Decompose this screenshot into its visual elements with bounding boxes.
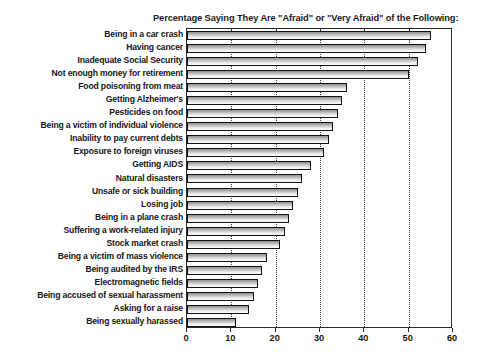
bar	[187, 96, 342, 105]
category-label: Being in a car crash	[0, 29, 183, 39]
x-tick-40	[363, 328, 364, 332]
category-label: Getting Alzheimer's	[0, 94, 183, 104]
category-label: Suffering a work-related injury	[0, 225, 183, 235]
category-label: Not enough money for retirement	[0, 68, 183, 78]
x-tick-label-30: 30	[314, 333, 324, 343]
x-tick-20	[275, 328, 276, 332]
bar-row	[187, 81, 451, 94]
x-tick-0	[186, 328, 187, 332]
x-axis-tick-labels: 0102030405060	[186, 333, 452, 347]
bar-row	[187, 186, 451, 199]
bar	[187, 44, 426, 53]
bar	[187, 122, 333, 131]
bar-row	[187, 212, 451, 225]
bar-row	[187, 29, 451, 42]
bar-series	[187, 29, 451, 327]
bar	[187, 161, 311, 170]
bar	[187, 83, 347, 92]
category-label: Getting AIDS	[0, 159, 183, 169]
bar-row	[187, 68, 451, 81]
bar-row	[187, 303, 451, 316]
category-label: Inadequate Social Security	[0, 55, 183, 65]
category-label: Inability to pay current debts	[0, 133, 183, 143]
bar-row	[187, 55, 451, 68]
x-tick-50	[408, 328, 409, 332]
category-label: Being accused of sexual harassment	[0, 290, 183, 300]
plot-area	[186, 28, 452, 328]
category-label: Electromagnetic fields	[0, 277, 183, 287]
bar-row	[187, 251, 451, 264]
category-label: Losing job	[0, 199, 183, 209]
category-label: Exposure to foreign viruses	[0, 146, 183, 156]
bar	[187, 135, 329, 144]
category-label: Being a victim of mass violence	[0, 251, 183, 261]
x-tick-label-40: 40	[358, 333, 368, 343]
category-label: Pesticides on food	[0, 107, 183, 117]
bar	[187, 214, 289, 223]
category-label: Being in a plane crash	[0, 212, 183, 222]
category-label: Being sexually harassed	[0, 316, 183, 326]
chart-page: Percentage Saying They Are "Afraid" or "…	[0, 0, 477, 355]
x-tick-label-20: 20	[270, 333, 280, 343]
category-label: Natural disasters	[0, 173, 183, 183]
bar	[187, 148, 324, 157]
bar	[187, 292, 254, 301]
x-tick-60	[452, 328, 453, 332]
bar	[187, 188, 298, 197]
bar-row	[187, 277, 451, 290]
bar-row	[187, 264, 451, 277]
category-label: Stock market crash	[0, 238, 183, 248]
bar	[187, 201, 293, 210]
category-label: Being audited by the IRS	[0, 264, 183, 274]
bar	[187, 240, 280, 249]
scan-artifact-strip	[0, 0, 477, 10]
category-label: Being a victim of individual violence	[0, 120, 183, 130]
bar-row	[187, 172, 451, 185]
bar	[187, 279, 258, 288]
category-label: Having cancer	[0, 42, 183, 52]
bar-row	[187, 199, 451, 212]
bar	[187, 318, 236, 327]
bar-row	[187, 159, 451, 172]
x-tick-label-0: 0	[183, 333, 188, 343]
bar	[187, 174, 302, 183]
bar-row	[187, 238, 451, 251]
x-tick-label-10: 10	[225, 333, 235, 343]
bar	[187, 227, 285, 236]
bar	[187, 57, 418, 66]
bar-row	[187, 146, 451, 159]
chart-title: Percentage Saying They Are "Afraid" or "…	[153, 13, 475, 23]
category-label: Food poisoning from meat	[0, 81, 183, 91]
bar-row	[187, 290, 451, 303]
category-label: Unsafe or sick building	[0, 186, 183, 196]
bar	[187, 70, 409, 79]
bar-row	[187, 225, 451, 238]
bar	[187, 266, 262, 275]
x-tick-label-50: 50	[403, 333, 413, 343]
bar-row	[187, 107, 451, 120]
bar-row	[187, 42, 451, 55]
x-tick-30	[319, 328, 320, 332]
x-tick-label-60: 60	[447, 333, 457, 343]
bar-row	[187, 94, 451, 107]
category-label: Asking for a raise	[0, 303, 183, 313]
bar	[187, 109, 338, 118]
bar	[187, 31, 431, 40]
bar-row	[187, 120, 451, 133]
x-tick-10	[230, 328, 231, 332]
bar	[187, 253, 267, 262]
category-axis-labels: Being in a car crashHaving cancerInadequ…	[0, 28, 183, 328]
bar-row	[187, 133, 451, 146]
bar	[187, 305, 249, 314]
